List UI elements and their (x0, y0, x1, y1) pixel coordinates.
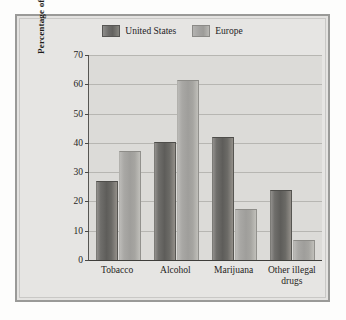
bar-groups (89, 55, 322, 260)
y-tick-label: 50 (74, 109, 84, 119)
x-tick-label: Marijuana (205, 265, 263, 287)
legend-entry-europe[interactable]: Europe (192, 25, 242, 37)
chart-panel: United States Europe Percentage of Tenth… (19, 18, 326, 298)
y-tick-label: 20 (74, 196, 84, 206)
x-tick-label: Alcohol (146, 265, 204, 287)
bar-group (89, 55, 147, 260)
bar-group (147, 55, 205, 260)
bar-group (264, 55, 322, 260)
legend-entry-united-states[interactable]: United States (102, 25, 176, 37)
legend-swatch-united-states-icon (102, 25, 120, 37)
bar-united-states[interactable] (270, 190, 292, 260)
y-tick-label: 70 (74, 50, 84, 60)
x-tick-label-line: Tobacco (101, 265, 133, 275)
chart-legend: United States Europe (20, 25, 325, 37)
plot-wrapper: 706050403020100 TobaccoAlcoholMarijuanaO… (66, 55, 324, 307)
x-tick-label-line: Marijuana (214, 265, 253, 275)
y-tick-mark (85, 260, 89, 261)
bar-united-states[interactable] (96, 181, 118, 260)
y-tick-label: 60 (74, 79, 84, 89)
y-tick-label: 0 (78, 255, 83, 265)
x-tick-label: Other illegaldrugs (263, 265, 321, 287)
bar-europe[interactable] (235, 209, 257, 260)
bar-europe[interactable] (293, 240, 315, 260)
bar-europe[interactable] (119, 151, 141, 260)
bar-group (206, 55, 264, 260)
bar-europe[interactable] (177, 80, 199, 260)
x-axis-category-labels: TobaccoAlcoholMarijuanaOther illegaldrug… (88, 265, 321, 287)
y-tick-label: 30 (74, 167, 84, 177)
bar-united-states[interactable] (212, 137, 234, 260)
legend-label-united-states: United States (125, 26, 176, 36)
y-axis-title: Percentage of Tenth-Grade Students (34, 0, 48, 79)
y-tick-label: 10 (74, 226, 84, 236)
figure: United States Europe Percentage of Tenth… (0, 0, 346, 320)
x-tick-label-line: Alcohol (160, 265, 191, 275)
x-tick-label-line: drugs (263, 276, 321, 287)
x-tick-label: Tobacco (88, 265, 146, 287)
y-tick-label: 40 (74, 138, 84, 148)
chart-frame: United States Europe Percentage of Tenth… (15, 14, 330, 302)
x-tick-label-line: Other illegal (268, 265, 316, 275)
y-axis-tick-labels: 706050403020100 (66, 55, 86, 260)
bar-united-states[interactable] (154, 142, 176, 260)
plot-area (88, 55, 322, 261)
legend-label-europe: Europe (215, 26, 242, 36)
legend-swatch-europe-icon (192, 25, 210, 37)
